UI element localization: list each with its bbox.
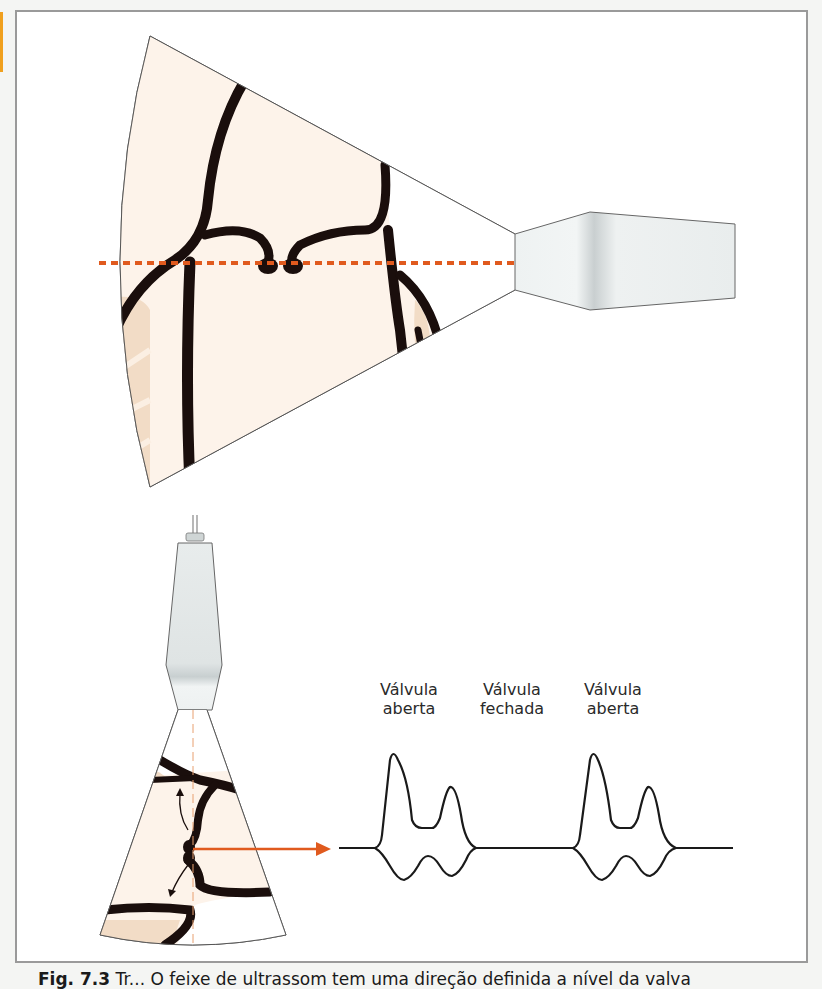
label-line: aberta	[558, 699, 668, 718]
transducer-probe-horizontal	[515, 212, 735, 310]
label-line: Válvula	[558, 680, 668, 699]
top-sector-scan	[100, 20, 520, 500]
figure-caption: Fig. 7.3 Tr... O feixe de ultrassom tem …	[38, 969, 691, 989]
transducer-probe-vertical	[166, 515, 222, 710]
label-line: aberta	[354, 699, 464, 718]
label-line: Válvula	[457, 680, 567, 699]
label-valve-open-2: Válvula aberta	[558, 680, 668, 718]
label-valve-open-1: Válvula aberta	[354, 680, 464, 718]
bottom-sector-scan	[90, 700, 300, 960]
m-mode-waveform	[339, 754, 733, 880]
label-line: fechada	[457, 699, 567, 718]
caption-text: Tr... O feixe de ultrassom tem uma direç…	[116, 969, 691, 989]
label-valve-closed: Válvula fechada	[457, 680, 567, 718]
caption-prefix: Fig. 7.3	[38, 969, 110, 989]
label-line: Válvula	[354, 680, 464, 699]
